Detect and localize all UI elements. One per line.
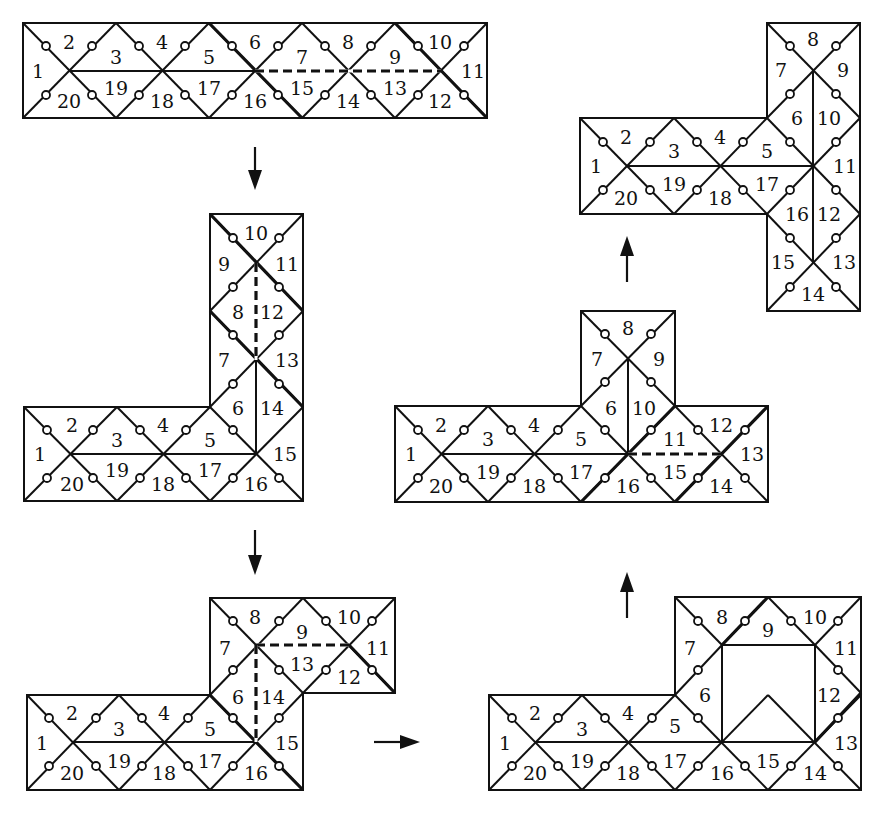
triangle-label: 13: [740, 443, 764, 465]
hinge-circle-icon: [507, 426, 515, 434]
triangle-label: 11: [833, 155, 857, 177]
triangle-label: 20: [60, 762, 84, 784]
hinge-circle-icon: [786, 42, 794, 50]
hinge-circle-icon: [554, 714, 562, 722]
triangle-label: 8: [622, 317, 634, 339]
arrow-right-icon: [374, 735, 420, 749]
hinge-circle-icon: [786, 234, 794, 242]
arrow-down-1-icon: [248, 147, 262, 190]
triangle-label: 19: [476, 461, 500, 483]
triangle-label: 20: [523, 762, 547, 784]
triangle-label: 8: [232, 301, 244, 323]
hinge-circle-icon: [274, 42, 282, 50]
hinge-circle-icon: [136, 426, 144, 434]
hinge-circle-icon: [322, 617, 330, 625]
hinge-circle-icon: [229, 380, 237, 388]
hinge-circle-icon: [274, 91, 282, 99]
hinge-circle-icon: [739, 186, 747, 194]
hinge-circle-icon: [138, 714, 146, 722]
triangle-label: 15: [663, 461, 687, 483]
triangle-label: 17: [198, 459, 222, 481]
triangle-label: 14: [336, 90, 360, 112]
triangle-label: 6: [232, 686, 244, 708]
triangle-label: 6: [249, 31, 261, 53]
hinge-circle-icon: [43, 474, 51, 482]
triangle-label: 9: [837, 59, 849, 81]
triangle-label: 18: [522, 475, 546, 497]
folding-diagram: 1234567891011121314151617181920123452019…: [0, 0, 889, 814]
triangle-label: 9: [218, 253, 230, 275]
hinge-circle-icon: [834, 762, 842, 770]
hinge-circle-icon: [787, 762, 795, 770]
hinge-circle-icon: [786, 90, 794, 98]
hinge-circle-icon: [554, 762, 562, 770]
figure-ring-shape: 1234520191817161514131211109876: [489, 597, 861, 790]
arrow-up-1-icon: [620, 572, 634, 618]
hinge-circle-icon: [601, 426, 609, 434]
triangle-label: 9: [653, 348, 665, 370]
triangle-label: 1: [34, 443, 46, 465]
triangle-label: 12: [260, 301, 284, 323]
triangle-label: 17: [569, 461, 593, 483]
triangle-label: 3: [111, 429, 123, 451]
hinge-circle-icon: [832, 90, 840, 98]
hinge-circle-icon: [832, 42, 840, 50]
hinge-circle-icon: [92, 762, 100, 770]
triangle-label: 5: [761, 140, 773, 162]
triangle-label: 12: [428, 90, 452, 112]
hinge-circle-icon: [275, 474, 283, 482]
hinge-circle-icon: [646, 186, 654, 194]
triangle-label: 13: [383, 77, 407, 99]
triangle-label: 7: [296, 46, 308, 68]
triangle-label: 12: [817, 684, 841, 706]
hinge-circle-icon: [275, 762, 283, 770]
triangle-label: 2: [435, 414, 447, 436]
hinge-circle-icon: [601, 474, 609, 482]
hinge-circle-icon: [601, 762, 609, 770]
triangle-label: 2: [66, 702, 78, 724]
triangle-label: 1: [32, 60, 44, 82]
triangle-label: 19: [107, 750, 131, 772]
hinge-circle-icon: [834, 714, 842, 722]
hinge-circle-icon: [368, 666, 376, 674]
triangle-label: 7: [218, 349, 230, 371]
hinge-circle-icon: [460, 426, 468, 434]
triangle-label: 18: [150, 90, 174, 112]
arrow-down-2-icon: [248, 530, 262, 575]
hinge-circle-icon: [275, 283, 283, 291]
hinge-circle-icon: [648, 714, 656, 722]
triangle-label: 19: [662, 173, 686, 195]
triangle-label: 7: [775, 59, 787, 81]
triangle-label: 10: [803, 606, 827, 628]
hinge-circle-icon: [275, 380, 283, 388]
hinge-circle-icon: [414, 91, 422, 99]
triangle-label: 19: [104, 77, 128, 99]
hinge-circle-icon: [43, 426, 51, 434]
hinge-circle-icon: [694, 426, 702, 434]
triangle-label: 3: [668, 140, 680, 162]
triangle-label: 12: [337, 666, 361, 688]
hinge-circle-icon: [460, 91, 468, 99]
triangle-label: 9: [389, 46, 401, 68]
triangle-label: 18: [708, 187, 732, 209]
hinge-circle-icon: [181, 42, 189, 50]
triangle-label: 20: [614, 187, 638, 209]
hinge-circle-icon: [601, 714, 609, 722]
triangle-label: 5: [203, 46, 215, 68]
hinge-circle-icon: [136, 474, 144, 482]
hinge-circle-icon: [181, 91, 189, 99]
triangle-label: 8: [716, 606, 728, 628]
hinge-circle-icon: [648, 762, 656, 770]
triangle-label: 14: [260, 397, 284, 419]
triangle-label: 5: [204, 718, 216, 740]
hinge-circle-icon: [42, 42, 50, 50]
hinge-circle-icon: [88, 91, 96, 99]
triangle-label: 11: [366, 637, 390, 659]
hinge-circle-icon: [601, 330, 609, 338]
triangle-label: 18: [151, 473, 175, 495]
hinge-circle-icon: [739, 138, 747, 146]
triangle-label: 10: [337, 606, 361, 628]
hinge-circle-icon: [646, 138, 654, 146]
figure-t-shape: 1234520191817161514131211106798: [395, 311, 768, 502]
triangle-label: 10: [817, 107, 841, 129]
